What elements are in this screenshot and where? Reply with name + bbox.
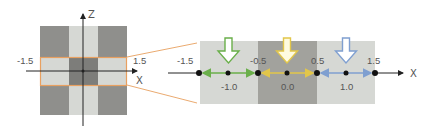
center-label-0.0: 0.0	[281, 81, 294, 92]
center-dot-minus-1.0	[226, 71, 231, 76]
connector-line-bottom	[127, 85, 197, 103]
tick-label-minus-0.5: -0.5	[250, 55, 266, 66]
center-label-1.0: 1.0	[340, 81, 353, 92]
boundary-dot-minus-1.5	[196, 70, 202, 76]
z-axis-label: Z	[88, 9, 95, 20]
tick-label-0.5: 0.5	[311, 55, 324, 66]
tick-label-1.5: 1.5	[367, 55, 380, 66]
tick-label-minus-1.5: -1.5	[177, 55, 193, 66]
center-label-minus-1.0: -1.0	[221, 81, 237, 92]
diagram-canvas: Z X -1.5 1.5 X -1.5 -0.5 0.	[0, 0, 431, 131]
boundary-dot-minus-0.5	[255, 70, 261, 76]
boundary-dot-1.5	[372, 70, 378, 76]
left-grid-figure: Z X -1.5 1.5	[17, 9, 146, 126]
right-zoomed-figure: X -1.5 -0.5 0.5 1.5 -1.0 0.0 1.0	[168, 38, 417, 104]
center-dot-0.0	[285, 71, 290, 76]
band-label-right: 1.5	[133, 55, 146, 66]
origin-dot	[82, 70, 85, 73]
x-axis-label-right: X	[410, 68, 417, 79]
center-dot-1.0	[344, 71, 349, 76]
x-axis-label: X	[136, 75, 143, 86]
band-label-left: -1.5	[17, 55, 33, 66]
boundary-dot-0.5	[314, 70, 320, 76]
